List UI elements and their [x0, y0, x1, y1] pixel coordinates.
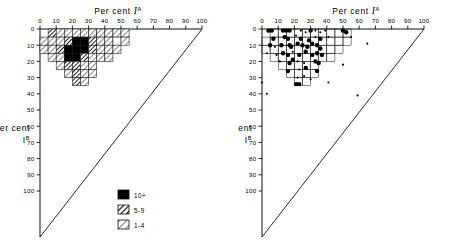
y-tick-label: 100 [23, 187, 34, 194]
scatter-point [305, 31, 307, 33]
scatter-point [266, 52, 268, 54]
grid-cell [327, 53, 335, 61]
density-cell [64, 70, 72, 78]
y-axis-title-left-line1: Per cent [0, 123, 30, 133]
scatter-point [319, 31, 321, 33]
density-cell [113, 37, 121, 45]
x-tick-label: 10 [274, 17, 282, 24]
x-tick-label: 90 [182, 17, 190, 24]
y-tick-label: 10 [249, 42, 257, 49]
scatter-point [300, 30, 302, 32]
density-cell [81, 61, 89, 69]
y-tick-label: 60 [249, 123, 257, 130]
density-cell [105, 29, 113, 37]
grid-cell [303, 53, 311, 61]
density-cell [48, 37, 56, 45]
legend-swatch [118, 190, 129, 199]
density-cell [89, 37, 97, 45]
scatter-point [274, 46, 276, 48]
scatter-point [344, 30, 348, 34]
scatter-point [276, 54, 278, 56]
grid-cell [327, 29, 335, 37]
scatter-point [357, 94, 359, 96]
y-tick-label: 0 [253, 25, 257, 32]
x-tick-label: 30 [307, 17, 315, 24]
density-cell [64, 37, 72, 45]
grid-cell [343, 37, 351, 45]
density-cell [81, 45, 89, 53]
x-tick-label: 90 [404, 17, 412, 24]
density-cell [64, 61, 72, 69]
density-cell [105, 37, 113, 45]
scatter-point [304, 66, 308, 70]
scatter-point [270, 28, 274, 32]
legend: 10+5-91-4 [118, 190, 146, 229]
density-cell [97, 37, 105, 45]
y-tick-label: 40 [27, 90, 35, 97]
scatter-point [310, 53, 314, 57]
legend-label: 5-9 [134, 207, 145, 214]
density-cell [72, 45, 80, 53]
density-cell [89, 53, 97, 61]
scatter-point [320, 53, 324, 57]
scatter-point [292, 51, 294, 53]
grid-cell [327, 37, 335, 45]
density-cell [48, 53, 56, 61]
scatter-point [289, 45, 293, 49]
density-cell [89, 45, 97, 53]
scatter-point [279, 43, 283, 47]
density-cell [56, 61, 64, 69]
y-tick-label: 20 [27, 58, 35, 65]
density-cell [72, 53, 80, 61]
x-tick-label: 20 [291, 17, 299, 24]
panel-density-plot: Per cent IA Per cent IB 0010102020303040… [0, 0, 237, 247]
scatter-point [310, 78, 312, 80]
density-cell-group [40, 29, 129, 86]
scatter-point [281, 51, 285, 55]
panel-scatter-plot: Per cent IA Per cent IB 0010102020303040… [238, 0, 475, 247]
density-cell [48, 45, 56, 53]
grid-cell [294, 70, 302, 78]
density-cell [121, 37, 129, 45]
density-cell [113, 29, 121, 37]
scatter-point [287, 61, 291, 65]
scatter-point [295, 34, 297, 36]
scatter-point [286, 37, 290, 41]
density-cell [81, 53, 89, 61]
y-tick-label: 70 [27, 139, 35, 146]
scatter-point [268, 43, 272, 47]
x-tick-label: 100 [418, 17, 429, 24]
scatter-point [308, 28, 312, 32]
x-axis-title-right: Per cent IA [332, 6, 379, 16]
y-tick-label: 50 [27, 106, 35, 113]
density-cell [81, 70, 89, 78]
x-tick-label: 60 [355, 17, 363, 24]
scatter-point [287, 28, 291, 32]
x-tick-label: 40 [101, 17, 109, 24]
x-axis-title-left: Per cent IA [94, 6, 141, 16]
scatter-point [324, 30, 326, 32]
scatter-point [305, 45, 309, 49]
scatter-point [327, 36, 329, 38]
x-tick-label: 30 [85, 17, 93, 24]
y-tick-label: 80 [249, 155, 257, 162]
scatter-point [261, 81, 263, 83]
density-cell [56, 37, 64, 45]
scatter-point [314, 36, 316, 38]
y-tick-label: 30 [249, 74, 257, 81]
density-cell [72, 61, 80, 69]
grid-cell [294, 61, 302, 69]
x-tick-label: 70 [372, 17, 380, 24]
scatter-point [279, 60, 281, 62]
density-cell [89, 70, 97, 78]
scatter-point [291, 58, 295, 62]
scatter-point [271, 37, 275, 41]
density-cell [113, 45, 121, 53]
grid-cell [327, 45, 335, 53]
y-tick-label: 10 [27, 42, 35, 49]
x-tick-label: 0 [38, 17, 42, 24]
scatter-point [310, 41, 314, 45]
x-tick-label: 60 [133, 17, 141, 24]
grid-cell [335, 37, 343, 45]
density-cell [56, 45, 64, 53]
